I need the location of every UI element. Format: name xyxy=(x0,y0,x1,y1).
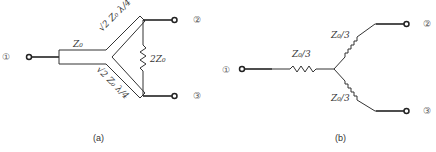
lower-arm-label: √2 Z₀ λ/4 xyxy=(95,64,132,101)
port-2-label-b: ② xyxy=(423,19,431,29)
caption-b: (b) xyxy=(335,133,346,143)
resistor-1 xyxy=(272,66,334,72)
port-3-terminal xyxy=(172,94,177,99)
input-line-label: Z₀ xyxy=(72,39,83,49)
caption-a: (a) xyxy=(93,133,104,143)
resistor-1-label: Z₀/3 xyxy=(291,49,311,59)
figure-a: ① Z₀ √2 Z₀ λ/4 √2 Z₀ λ/4 ② ③ 2Z₀ (a) xyxy=(2,0,201,143)
port-2-label: ② xyxy=(193,15,201,25)
port-3-label-b: ③ xyxy=(423,106,431,116)
resistor-3-label: Z₀/3 xyxy=(330,93,350,103)
figure-b: ① Z₀/3 ② Z₀/3 ③ Z₀/3 (b) xyxy=(222,19,431,143)
port-1-terminal xyxy=(27,55,32,60)
resistor-3 xyxy=(334,69,376,111)
port-2-terminal xyxy=(172,18,177,23)
resistor-label: 2Z₀ xyxy=(149,54,166,64)
port-1-terminal-b xyxy=(240,67,245,72)
port-2-terminal-b xyxy=(404,22,409,27)
isolation-resistor xyxy=(140,20,146,96)
port-3-label: ③ xyxy=(193,91,201,101)
power-divider-diagrams: ① Z₀ √2 Z₀ λ/4 √2 Z₀ λ/4 ② ③ 2Z₀ (a) ① Z… xyxy=(0,0,436,152)
port-3-terminal-b xyxy=(404,109,409,114)
resistor-2-label: Z₀/3 xyxy=(330,30,350,40)
port-1-label-b: ① xyxy=(222,65,230,75)
port-1-label: ① xyxy=(2,52,10,62)
